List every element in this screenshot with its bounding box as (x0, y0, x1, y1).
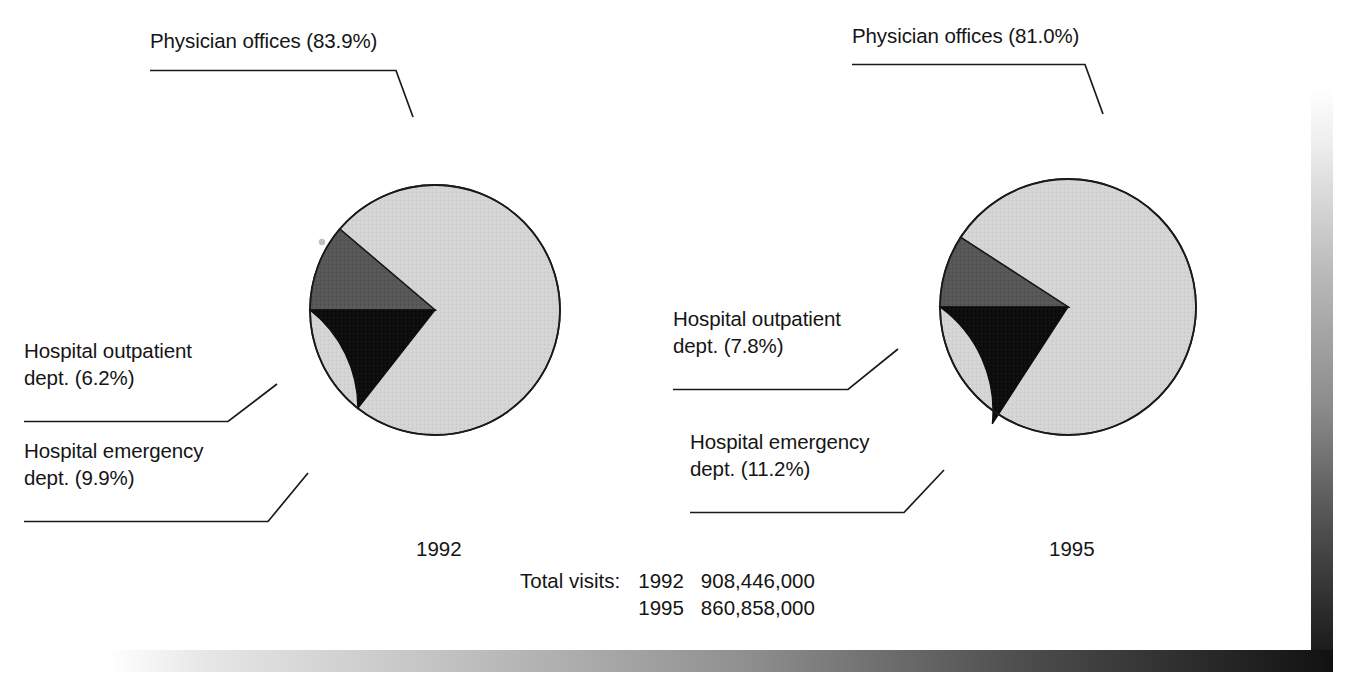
label-hospital-emergency-1995-line1: Hospital emergency (690, 430, 869, 453)
total-visits-value-1992: 908,446,000 (701, 569, 815, 596)
year-caption-1995: 1995 (1049, 537, 1095, 561)
figure-canvas: Physician offices (83.9%) Hospital outpa… (0, 0, 1371, 689)
total-visits-block: Total visits: 1992 908,446,000 1995 860,… (520, 569, 815, 623)
label-hospital-outpatient-1992-line2: dept. (6.2%) (24, 366, 134, 389)
total-visits-year-1995: 1995 (638, 596, 701, 623)
label-hospital-outpatient-1995-line1: Hospital outpatient (673, 307, 841, 330)
shadow-border-right (1311, 88, 1333, 672)
table-row: Total visits: 1992 908,446,000 (520, 569, 815, 596)
total-visits-value-1995: 860,858,000 (701, 596, 815, 623)
label-hospital-outpatient-1995: Hospital outpatient dept. (7.8%) (673, 305, 841, 359)
label-hospital-emergency-1995: Hospital emergency dept. (11.2%) (690, 428, 869, 482)
label-hospital-outpatient-1992: Hospital outpatient dept. (6.2%) (24, 337, 192, 391)
total-visits-table: Total visits: 1992 908,446,000 1995 860,… (520, 569, 815, 623)
leader-line-physician-offices-1992 (150, 71, 413, 118)
label-physician-offices-1995: Physician offices (81.0%) (852, 23, 1079, 49)
total-visits-label-spacer (520, 596, 638, 623)
label-hospital-emergency-1992-line1: Hospital emergency (24, 439, 203, 462)
shadow-border-bottom (110, 650, 1333, 672)
total-visits-label: Total visits: (520, 569, 638, 596)
label-hospital-outpatient-1992-line1: Hospital outpatient (24, 339, 192, 362)
year-caption-1992: 1992 (416, 537, 462, 561)
print-speck-artifact (319, 239, 325, 245)
label-hospital-emergency-1992-line2: dept. (9.9%) (24, 466, 134, 489)
total-visits-year-1992: 1992 (638, 569, 701, 596)
label-hospital-emergency-1995-line2: dept. (11.2%) (690, 457, 810, 480)
label-physician-offices-1992: Physician offices (83.9%) (150, 28, 377, 54)
label-hospital-emergency-1992: Hospital emergency dept. (9.9%) (24, 437, 203, 491)
leader-line-physician-offices-1995 (852, 65, 1103, 115)
label-hospital-outpatient-1995-line2: dept. (7.8%) (673, 334, 783, 357)
table-row: 1995 860,858,000 (520, 596, 815, 623)
